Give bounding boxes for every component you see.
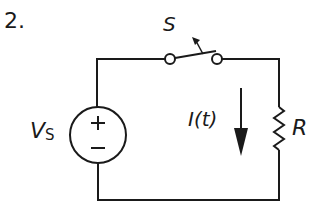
switch-label: S xyxy=(163,14,176,34)
resistor-icon xyxy=(274,107,284,150)
circuit-diagram xyxy=(0,0,316,212)
current-label: I(t) xyxy=(188,109,217,129)
wire-bottom xyxy=(98,150,279,200)
voltage-source-icon xyxy=(70,107,126,163)
wire-top-right xyxy=(222,59,279,107)
source-label: VS xyxy=(30,120,55,143)
switch-terminal-right xyxy=(212,54,222,64)
switch-arrow-icon xyxy=(192,37,200,45)
resistor-label: R xyxy=(292,117,307,139)
switch-blade xyxy=(175,51,216,58)
switch-terminal-left xyxy=(165,54,175,64)
wire-top-left xyxy=(97,59,165,107)
